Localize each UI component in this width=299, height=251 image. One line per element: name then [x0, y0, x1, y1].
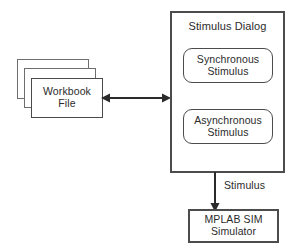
- stimulus-dialog-box: [170, 11, 285, 173]
- double-arrow-icon: [101, 90, 171, 106]
- down-arrow-icon: [207, 172, 223, 212]
- synchronous-stimulus-box[interactable]: Synchronous Stimulus: [183, 48, 273, 83]
- asynchronous-stimulus-label: Asynchronous Stimulus: [194, 115, 262, 139]
- mplab-sim-simulator-label: MPLAB SIM Simulator: [204, 214, 262, 238]
- stimulus-connector-label: Stimulus: [224, 180, 294, 192]
- workbook-file-label: Workbook File: [43, 86, 91, 110]
- workbook-dialog-connector: [101, 90, 171, 106]
- stimulus-dialog-title: Stimulus Dialog: [170, 20, 285, 32]
- asynchronous-stimulus-box[interactable]: Asynchronous Stimulus: [183, 109, 273, 144]
- diagram-canvas: Workbook File Stimulus Dialog Synchronou…: [0, 0, 299, 251]
- synchronous-stimulus-label: Synchronous Stimulus: [197, 54, 259, 78]
- dialog-simulator-connector: [207, 172, 223, 212]
- mplab-sim-simulator-box: MPLAB SIM Simulator: [188, 209, 279, 243]
- workbook-file-box: Workbook File: [31, 78, 103, 118]
